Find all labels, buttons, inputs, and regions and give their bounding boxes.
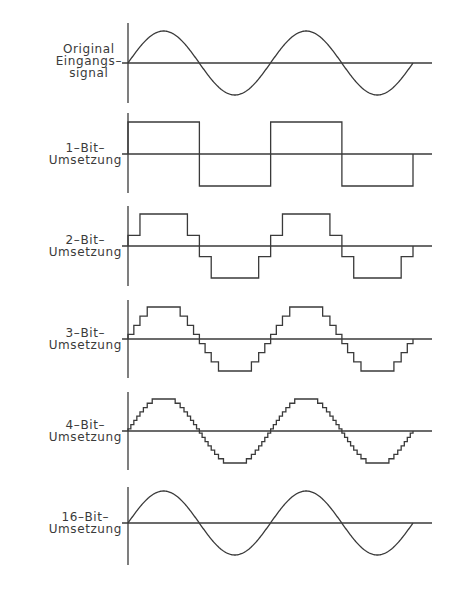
panel-label-16bit: 16–Bit–Umsetzung xyxy=(49,511,122,535)
label-line: Umsetzung xyxy=(49,339,122,351)
label-line: Umsetzung xyxy=(49,431,122,443)
waveform-canvas xyxy=(0,0,455,598)
label-line: signal xyxy=(56,67,122,79)
panel-label-2bit: 2–Bit–Umsetzung xyxy=(49,234,122,258)
label-line: Umsetzung xyxy=(49,246,122,258)
panel-label-original: OriginalEingangs–signal xyxy=(56,43,122,79)
panel-label-3bit: 3–Bit–Umsetzung xyxy=(49,327,122,351)
panel-label-1bit: 1–Bit–Umsetzung xyxy=(49,142,122,166)
panel-label-4bit: 4–Bit–Umsetzung xyxy=(49,419,122,443)
label-line: Umsetzung xyxy=(49,154,122,166)
label-line: Umsetzung xyxy=(49,523,122,535)
